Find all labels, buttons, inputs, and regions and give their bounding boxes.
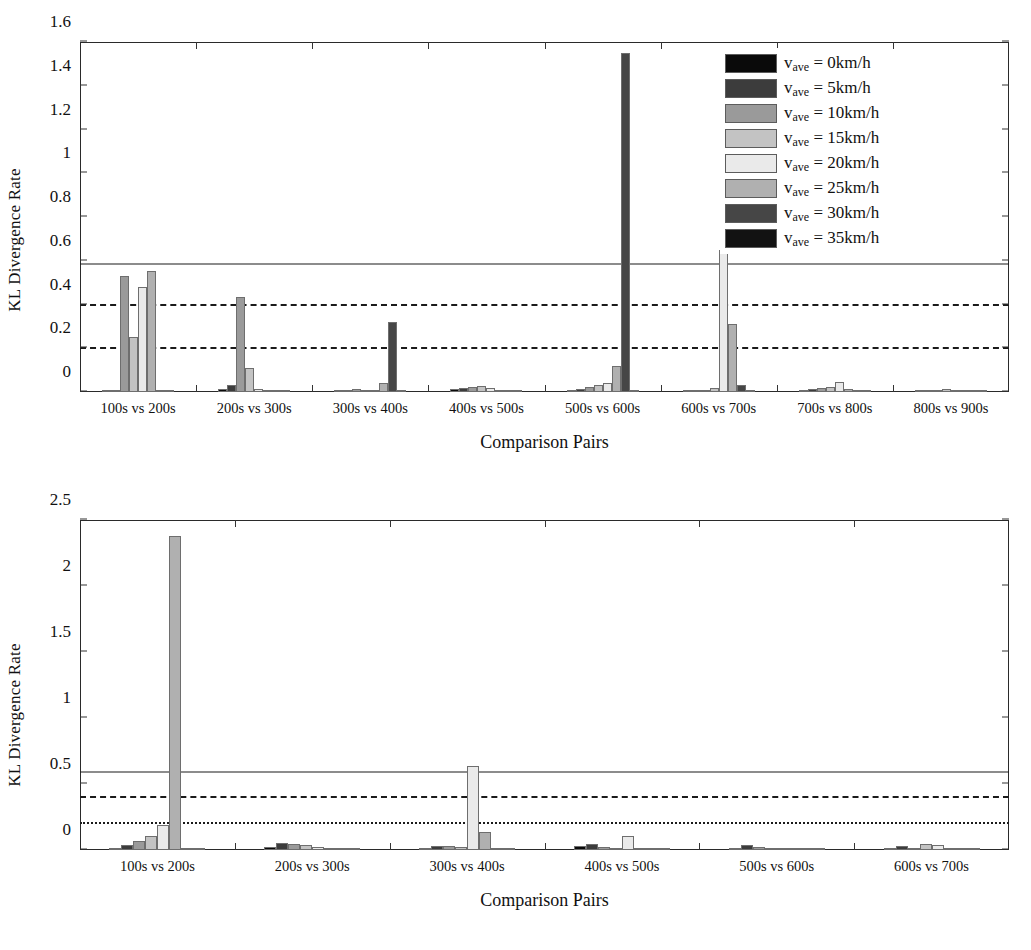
bar xyxy=(288,844,300,850)
bar xyxy=(121,845,133,850)
y-axis-title-bottom: KL Divergence Rate xyxy=(0,480,30,950)
bar xyxy=(585,387,594,392)
y-tick-mark xyxy=(80,849,87,850)
bars xyxy=(264,520,360,850)
x-axis-category-label: 600s vs 700s xyxy=(661,400,777,417)
bar xyxy=(102,390,111,392)
bar xyxy=(586,844,598,850)
x-tick-mark xyxy=(777,385,778,392)
bars xyxy=(450,42,522,392)
y-tick-mark xyxy=(80,259,87,260)
x-axis-category-label: 400s vs 500s xyxy=(544,858,699,875)
bar xyxy=(343,390,352,392)
chart-top: KL Divergence Rate 00.20.40.60.811.21.41… xyxy=(0,0,1031,480)
bar xyxy=(455,847,467,850)
bar xyxy=(844,389,853,392)
y-tick-label: 1 xyxy=(63,143,72,163)
y-tick-mark xyxy=(80,172,87,173)
x-tick-mark xyxy=(390,843,391,850)
y-tick-mark xyxy=(80,84,87,85)
y-tick-mark xyxy=(80,41,87,42)
y-tick-label: 0 xyxy=(63,820,72,840)
bar xyxy=(978,390,987,392)
x-tick-mark xyxy=(545,42,546,49)
y-tick-mark xyxy=(1002,717,1009,718)
legend-item: vave = 10km/h xyxy=(725,101,879,126)
bar xyxy=(646,848,658,850)
bar xyxy=(236,297,245,392)
bar xyxy=(567,390,576,392)
x-axis-category-label: 700s vs 800s xyxy=(777,400,893,417)
bar xyxy=(896,846,908,850)
bar xyxy=(808,389,817,393)
bar xyxy=(862,390,871,392)
bar xyxy=(753,847,765,850)
x-tick-mark xyxy=(312,385,313,392)
x-axis-category-label: 500s vs 600s xyxy=(545,400,661,417)
bar xyxy=(801,848,813,850)
x-tick-mark xyxy=(390,520,391,527)
y-tick-mark xyxy=(1002,849,1009,850)
legend-item: vave = 35km/h xyxy=(725,226,879,251)
bar xyxy=(419,848,431,850)
x-labels-top: 100s vs 200s200s vs 300s300s vs 400s400s… xyxy=(80,400,1009,417)
bar xyxy=(431,846,443,850)
y-tick-label: 0.8 xyxy=(50,187,71,207)
bar-group xyxy=(390,520,545,850)
x-tick-mark xyxy=(235,520,236,527)
bar xyxy=(468,387,477,392)
bar xyxy=(915,390,924,392)
bars xyxy=(915,42,987,392)
bar xyxy=(956,848,968,850)
bar xyxy=(701,390,710,392)
legend-swatch xyxy=(725,154,777,173)
bar xyxy=(348,848,360,850)
y-tick-mark xyxy=(80,391,87,392)
legend-item: vave = 15km/h xyxy=(725,126,879,151)
bar-groups-bottom xyxy=(80,520,1009,850)
bars xyxy=(574,520,670,850)
bar xyxy=(574,846,586,850)
bar xyxy=(459,388,468,392)
x-tick-mark xyxy=(893,42,894,49)
bar xyxy=(612,366,621,392)
bar xyxy=(491,848,503,850)
bar xyxy=(944,848,956,850)
y-tick-mark xyxy=(80,216,87,217)
x-tick-mark xyxy=(196,42,197,49)
bar xyxy=(729,848,741,850)
bars xyxy=(419,520,515,850)
y-tick-mark xyxy=(80,585,87,586)
x-tick-mark xyxy=(428,42,429,49)
bar xyxy=(504,390,513,392)
legend-label: vave = 35km/h xyxy=(784,228,879,250)
x-tick-mark xyxy=(699,843,700,850)
y-tick-mark xyxy=(80,783,87,784)
plot-area-bottom: 00.511.522.5 xyxy=(80,520,1009,850)
y-tick-mark xyxy=(1002,347,1009,348)
bar xyxy=(486,388,495,392)
legend-item: vave = 20km/h xyxy=(725,151,879,176)
x-tick-mark xyxy=(428,385,429,392)
legend-label: vave = 0km/h xyxy=(784,53,871,75)
bar xyxy=(630,390,639,392)
bar xyxy=(379,383,388,392)
y-tick-mark xyxy=(1002,585,1009,586)
bar xyxy=(576,389,585,392)
x-tick-mark xyxy=(661,42,662,49)
bar-group xyxy=(312,42,428,392)
bar xyxy=(397,390,406,392)
x-tick-mark xyxy=(312,42,313,49)
bar xyxy=(968,848,980,850)
bar xyxy=(692,390,701,392)
y-tick-mark xyxy=(80,128,87,129)
x-axis-category-label: 200s vs 300s xyxy=(235,858,390,875)
bar xyxy=(334,390,343,392)
bar xyxy=(598,847,610,850)
bar xyxy=(263,390,272,392)
bar xyxy=(951,390,960,392)
legend-swatch xyxy=(725,54,777,73)
bar xyxy=(960,390,969,392)
bar xyxy=(111,390,120,392)
y-tick-label: 0.5 xyxy=(50,754,71,774)
